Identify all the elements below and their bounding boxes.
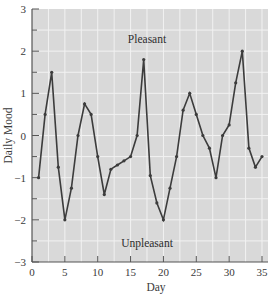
- x-tick-label: 30: [224, 266, 236, 278]
- y-tick-label: −1: [14, 172, 26, 184]
- y-tick-label: 2: [21, 45, 27, 57]
- data-point: [44, 113, 47, 116]
- y-tick-label: −3: [14, 256, 26, 268]
- data-point: [234, 81, 237, 84]
- y-tick-label: 3: [21, 3, 27, 15]
- data-point: [70, 187, 73, 190]
- data-point: [188, 92, 191, 95]
- data-point: [142, 58, 145, 61]
- x-tick-label: 5: [62, 266, 68, 278]
- data-point: [63, 218, 66, 221]
- data-point: [155, 201, 158, 204]
- data-point: [109, 168, 112, 171]
- x-tick-label: 0: [29, 266, 35, 278]
- data-point: [136, 134, 139, 137]
- data-point: [201, 134, 204, 137]
- x-tick-label: 35: [257, 266, 269, 278]
- data-point: [149, 174, 152, 177]
- data-point: [116, 163, 119, 166]
- data-point: [37, 176, 40, 179]
- y-tick-label: 1: [21, 87, 27, 99]
- data-point: [254, 166, 257, 169]
- x-tick-label: 10: [92, 266, 104, 278]
- data-point: [57, 166, 60, 169]
- data-point: [168, 187, 171, 190]
- data-point: [175, 155, 178, 158]
- data-point: [228, 123, 231, 126]
- annotation-pleasant: Pleasant: [128, 33, 167, 45]
- data-point: [260, 155, 263, 158]
- x-tick-label: 25: [191, 266, 203, 278]
- data-point: [208, 147, 211, 150]
- data-point: [162, 218, 165, 221]
- data-point: [90, 113, 93, 116]
- data-point: [50, 71, 53, 74]
- annotation-unpleasant: Unpleasant: [121, 237, 174, 250]
- y-tick-label: 0: [21, 130, 27, 142]
- data-point: [96, 155, 99, 158]
- y-tick-label: −2: [14, 214, 26, 226]
- data-point: [103, 193, 106, 196]
- data-point: [122, 159, 125, 162]
- data-point: [182, 109, 185, 112]
- data-point: [76, 134, 79, 137]
- x-axis-title: Day: [146, 281, 165, 294]
- data-point: [247, 147, 250, 150]
- x-tick-label: 15: [125, 266, 137, 278]
- data-point: [221, 134, 224, 137]
- data-point: [214, 176, 217, 179]
- data-point: [241, 50, 244, 53]
- data-point: [129, 155, 132, 158]
- data-point: [195, 113, 198, 116]
- data-point: [83, 102, 86, 105]
- mood-line-chart: 3210−1−2−305101520253035PleasantUnpleasa…: [0, 0, 271, 295]
- y-axis-title: Daily Mood: [2, 107, 15, 163]
- x-tick-label: 20: [158, 266, 170, 278]
